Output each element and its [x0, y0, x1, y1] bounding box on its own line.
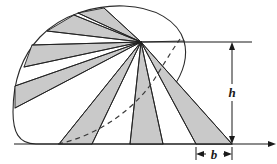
baseline-arrowhead-icon — [268, 141, 276, 147]
figure-container: h b — [0, 0, 277, 164]
base-dimension-group: b — [196, 146, 232, 162]
base-arrowhead-right-icon — [224, 151, 232, 157]
height-label: h — [228, 85, 235, 100]
base-label: b — [211, 147, 218, 162]
base-arrowhead-left-icon — [196, 151, 204, 157]
height-arrowhead-top-icon — [229, 42, 235, 50]
geometry-diagram: h b — [0, 0, 277, 164]
height-dimension-group: h — [224, 42, 241, 144]
